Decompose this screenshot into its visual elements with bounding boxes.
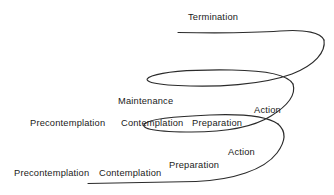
label-bottom-preparation: Preparation bbox=[169, 161, 219, 170]
label-mid-action: Action bbox=[254, 106, 281, 115]
label-termination: Termination bbox=[188, 13, 238, 22]
spiral-segment-upper bbox=[147, 40, 324, 86]
label-maintenance: Maintenance bbox=[118, 97, 173, 106]
label-mid-precontemplation: Precontemplation bbox=[30, 119, 105, 128]
stages-of-change-diagram: Termination Maintenance Precontemplation… bbox=[0, 0, 334, 195]
spiral-segment-top bbox=[178, 30, 324, 40]
label-mid-contemplation: Contemplation bbox=[121, 119, 183, 128]
label-bottom-precontemplation: Precontemplation bbox=[14, 169, 89, 178]
label-mid-preparation: Preparation bbox=[192, 119, 242, 128]
label-bottom-action: Action bbox=[228, 148, 255, 157]
label-bottom-contemplation: Contemplation bbox=[99, 169, 161, 178]
